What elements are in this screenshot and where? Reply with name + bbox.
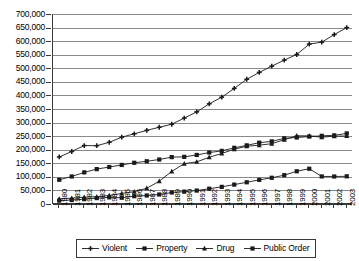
- x-axis-tick-label: 2001: [324, 189, 332, 206]
- y-axis-tick-mark: [46, 190, 51, 191]
- y-axis-tick-mark: [46, 177, 51, 178]
- legend-item-violent[interactable]: Violent: [82, 244, 127, 253]
- data-point-cross: [194, 109, 199, 114]
- data-point-square: [95, 167, 99, 171]
- data-point-square: [107, 165, 111, 169]
- y-axis-tick-label: 50,000: [20, 186, 45, 195]
- x-axis-tick-label: 1980: [61, 189, 69, 206]
- x-axis-tick-label: 1981: [74, 189, 82, 206]
- legend-label: Drug: [216, 244, 234, 253]
- series-violent: [57, 25, 349, 159]
- series-line: [59, 28, 347, 157]
- y-axis-tick-mark: [46, 95, 51, 96]
- data-point-square: [120, 163, 124, 167]
- data-point-square: [70, 174, 74, 178]
- x-axis-tick-mark: [246, 204, 247, 208]
- data-point-square: [145, 159, 149, 163]
- y-axis-tick-label: 650,000: [16, 23, 45, 32]
- data-point-square: [320, 174, 324, 178]
- x-axis-tick-mark: [321, 204, 322, 208]
- data-point-cross: [132, 131, 137, 136]
- y-axis-tick-mark: [46, 163, 51, 164]
- data-point-cross: [332, 32, 337, 37]
- data-point-cross: [282, 58, 287, 63]
- x-axis-tick-mark: [71, 204, 72, 208]
- x-axis-tick-label: 1992: [211, 189, 219, 206]
- data-point-square: [332, 174, 336, 178]
- y-axis-tick-label: 400,000: [16, 91, 45, 100]
- x-axis-tick-label: 1988: [161, 189, 169, 206]
- legend-marker-square-icon: [136, 244, 153, 253]
- x-axis-tick-label: 1985: [124, 189, 132, 206]
- x-axis-tick-mark: [346, 204, 347, 208]
- data-point-square: [182, 155, 186, 159]
- data-point-cross: [169, 122, 174, 127]
- legend-item-drug[interactable]: Drug: [196, 244, 234, 253]
- data-point-square: [157, 157, 161, 161]
- data-point-square: [207, 150, 211, 154]
- data-point-square: [250, 246, 254, 250]
- y-axis-tick-label: 350,000: [16, 105, 45, 114]
- data-point-square: [57, 178, 61, 182]
- x-axis-tick-label: 1990: [186, 189, 194, 206]
- x-axis-tick-label: 1994: [236, 189, 244, 206]
- line-chart: 700,000650,000600,000550,000500,000450,0…: [0, 0, 359, 261]
- data-point-cross: [57, 155, 62, 160]
- x-axis-tick-label: 1998: [286, 189, 294, 206]
- y-axis-tick-label: 600,000: [16, 37, 45, 46]
- y-axis-tick-label: 700,000: [16, 10, 45, 19]
- legend-label: Violent: [102, 244, 127, 253]
- y-axis-tick-mark: [46, 123, 51, 124]
- data-point-square: [307, 167, 311, 171]
- x-axis-tick-mark: [221, 204, 222, 208]
- y-axis-tick-label: 500,000: [16, 64, 45, 73]
- x-axis-tick-label: 1995: [249, 189, 257, 206]
- data-point-cross: [88, 246, 93, 251]
- plot-area: [52, 14, 352, 204]
- x-axis-tick-label: 1984: [111, 189, 119, 206]
- x-axis-tick-mark: [121, 204, 122, 208]
- x-axis-tick-label: 1997: [274, 189, 282, 206]
- data-point-square: [195, 153, 199, 157]
- x-axis-tick-mark: [96, 204, 97, 208]
- chart-legend: ViolentPropertyDrugPublic Order: [76, 239, 316, 258]
- legend-marker-triangle-icon: [196, 244, 213, 253]
- data-point-square: [270, 176, 274, 180]
- y-axis-tick-mark: [46, 41, 51, 42]
- x-axis-tick-label: 1982: [86, 189, 94, 206]
- legend-item-property[interactable]: Property: [136, 244, 187, 253]
- legend-marker-cross-icon: [82, 244, 99, 253]
- y-axis-tick-mark: [46, 68, 51, 69]
- x-axis-tick-label: 1991: [199, 189, 207, 206]
- data-point-cross: [107, 140, 112, 145]
- legend-item-public-order[interactable]: Public Order: [244, 244, 310, 253]
- data-point-cross: [82, 143, 87, 148]
- legend-label: Public Order: [264, 244, 310, 253]
- x-axis-tick-label: 1987: [149, 189, 157, 206]
- x-axis-tick-mark: [146, 204, 147, 208]
- series-line: [59, 133, 347, 179]
- x-axis-tick-label: 2000: [311, 189, 319, 206]
- y-axis-tick-label: 300,000: [16, 118, 45, 127]
- y-axis-tick-mark: [46, 204, 51, 205]
- data-point-cross: [69, 149, 74, 154]
- data-point-square: [345, 174, 349, 178]
- data-point-cross: [144, 128, 149, 133]
- x-axis-tick-label: 1996: [261, 189, 269, 206]
- x-axis-tick-mark: [296, 204, 297, 208]
- y-axis-tick-mark: [46, 55, 51, 56]
- data-point-triangle: [157, 179, 162, 184]
- data-point-cross: [94, 143, 99, 148]
- y-axis-tick-label: 200,000: [16, 145, 45, 154]
- x-axis-tick-mark: [271, 204, 272, 208]
- y-axis-tick-mark: [46, 14, 51, 15]
- data-point-square: [282, 173, 286, 177]
- data-point-square: [295, 169, 299, 173]
- data-point-square: [143, 246, 147, 250]
- series-layer: [53, 14, 353, 204]
- data-point-cross: [157, 125, 162, 130]
- data-point-cross: [182, 116, 187, 121]
- y-axis-tick-label: 100,000: [16, 172, 45, 181]
- series-property: [57, 131, 349, 182]
- x-axis-tick-mark: [196, 204, 197, 208]
